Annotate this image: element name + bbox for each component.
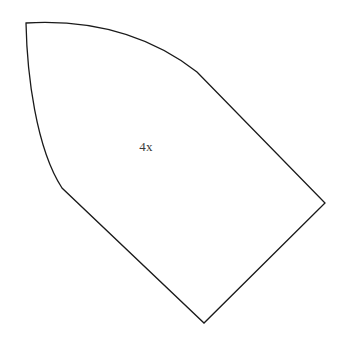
curved-quadrilateral-shape xyxy=(26,22,325,323)
figure-canvas: 4x xyxy=(0,0,344,346)
region-label-4x: 4x xyxy=(139,139,153,154)
geometry-figure: 4x xyxy=(0,0,344,346)
